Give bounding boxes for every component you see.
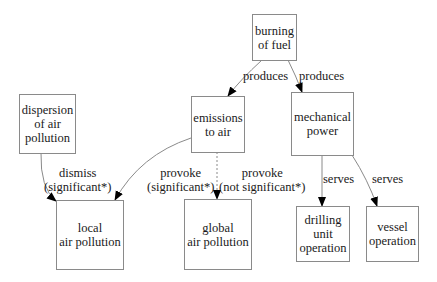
node-global-air-pollution: global air pollution [184, 199, 252, 270]
node-vessel-operation: vessel operation [366, 206, 419, 262]
edge-label-produces-left: produces [243, 69, 288, 83]
node-local-air-pollution: local air pollution [56, 200, 124, 270]
edge-label-provoke-not-significant: provoke (not significant*) [219, 166, 305, 194]
node-burning-of-fuel: burning of fuel [252, 14, 297, 61]
node-drilling-unit-operation: drilling unit operation [296, 206, 350, 262]
edge-label-serves-drilling: serves [323, 172, 354, 186]
node-mechanical-power: mechanical power [291, 92, 354, 156]
node-dispersion-of-air-pollution: dispersion of air pollution [19, 94, 76, 154]
edge-label-provoke-significant: provoke (significant*) [147, 166, 214, 194]
edge-label-serves-vessel: serves [372, 172, 403, 186]
edge-label-dismiss: dismiss (significant*) [44, 166, 111, 194]
edge-label-produces-right: produces [299, 69, 344, 83]
node-emissions-to-air: emissions to air [191, 96, 245, 153]
